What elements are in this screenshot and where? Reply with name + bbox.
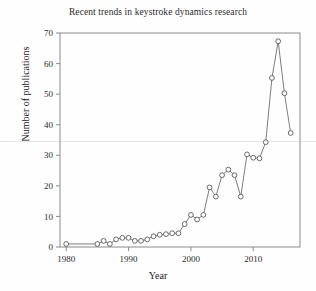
y-axis-label-text: Number of publications [20, 47, 31, 142]
y-axis-ticks: 010203040506070 [44, 28, 60, 252]
x-tick-label: 2000 [182, 254, 201, 264]
data-point-marker [195, 217, 200, 222]
x-tick-label: 1990 [120, 254, 139, 264]
data-point-marker [95, 242, 100, 247]
data-point-marker [226, 167, 231, 172]
data-point-marker [126, 235, 131, 240]
data-point-marker [276, 39, 281, 44]
data-point-marker [288, 131, 293, 136]
plot-area: 010203040506070 1980199020002010 [0, 0, 316, 291]
data-point-marker [232, 173, 237, 178]
data-point-marker [282, 91, 287, 96]
data-point-marker [257, 156, 262, 161]
data-point-marker [207, 185, 212, 190]
data-point-marker [245, 152, 250, 157]
data-point-markers [64, 39, 293, 246]
data-point-marker [220, 173, 225, 178]
y-tick-label: 10 [44, 212, 54, 222]
data-point-marker [145, 237, 150, 242]
data-point-marker [120, 235, 125, 240]
x-tick-label: 2010 [244, 254, 263, 264]
data-point-marker [189, 213, 194, 218]
data-point-marker [151, 234, 156, 239]
x-tick-label: 1980 [57, 254, 76, 264]
data-point-marker [170, 231, 175, 236]
y-tick-label: 30 [44, 150, 54, 160]
y-tick-label: 50 [44, 89, 54, 99]
data-series-line [66, 41, 290, 244]
y-tick-label: 70 [44, 28, 54, 38]
data-point-marker [157, 232, 162, 237]
data-point-marker [213, 194, 218, 199]
data-point-marker [238, 194, 243, 199]
chart-figure: Recent trends in keystroke dynamics rese… [0, 0, 316, 291]
y-axis-label: Number of publications [15, 24, 33, 164]
data-point-marker [107, 242, 112, 247]
y-tick-label: 40 [44, 120, 54, 130]
data-point-marker [101, 238, 106, 243]
data-point-marker [251, 155, 256, 160]
data-point-marker [132, 238, 137, 243]
data-point-marker [114, 237, 119, 242]
y-tick-label: 60 [44, 59, 54, 69]
data-point-marker [263, 140, 268, 145]
data-point-marker [139, 238, 144, 243]
x-axis-ticks: 1980199020002010 [57, 247, 263, 264]
data-point-marker [164, 232, 169, 237]
data-point-marker [270, 76, 275, 81]
data-point-marker [176, 231, 181, 236]
y-tick-label: 0 [49, 242, 54, 252]
y-tick-label: 20 [44, 181, 54, 191]
x-axis-label: Year [0, 270, 316, 281]
data-point-marker [64, 242, 69, 247]
data-point-marker [182, 222, 187, 227]
data-point-marker [201, 213, 206, 218]
